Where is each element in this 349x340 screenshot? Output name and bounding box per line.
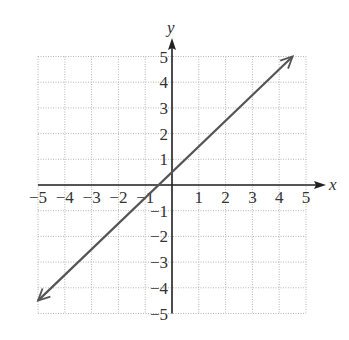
y-tick-label: −4 [150, 279, 169, 298]
y-tick-label: 4 [160, 73, 169, 92]
x-tick-label: 4 [275, 188, 284, 207]
x-tick-label: 1 [195, 188, 204, 207]
y-tick-label: 3 [160, 99, 169, 118]
y-tick-label: −5 [150, 305, 168, 324]
x-tick-label: 2 [221, 188, 230, 207]
x-tick-label: −2 [109, 188, 127, 207]
y-tick-label: −2 [150, 227, 168, 246]
y-tick-label: −3 [150, 253, 168, 272]
x-axis-label: x [328, 175, 337, 194]
y-tick-label: 2 [160, 125, 169, 144]
x-tick-label: −3 [83, 188, 101, 207]
y-tick-label: 5 [160, 48, 169, 67]
y-tick-label: −1 [150, 202, 168, 221]
x-tick-label: 3 [248, 188, 257, 207]
coordinate-plane: xy−5−4−3−2−11234554321−1−2−3−4−5 [0, 0, 349, 340]
x-tick-label: 5 [302, 188, 311, 207]
x-tick-label: −4 [56, 188, 75, 207]
y-axis-label: y [165, 18, 175, 37]
x-tick-label: −5 [29, 188, 47, 207]
y-tick-label: 1 [160, 150, 169, 169]
